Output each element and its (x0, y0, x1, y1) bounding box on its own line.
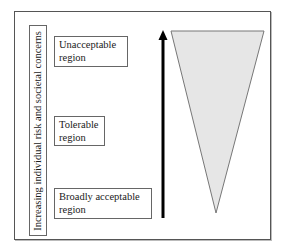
risk-triangle (171, 31, 264, 213)
arrow-up-icon (159, 30, 168, 218)
diagram-graphics (0, 0, 282, 251)
